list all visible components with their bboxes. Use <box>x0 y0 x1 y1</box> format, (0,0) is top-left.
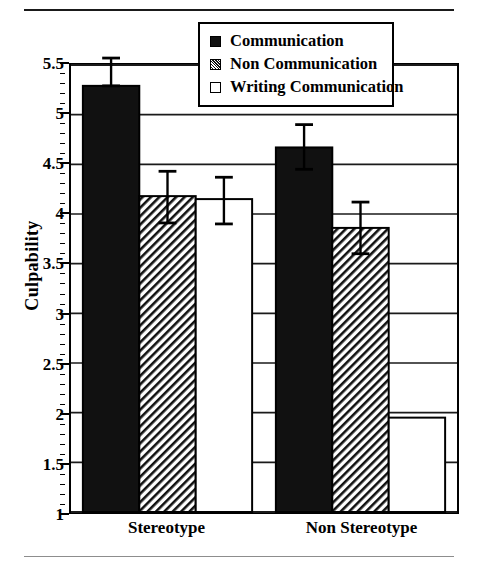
bar[interactable] <box>196 199 252 512</box>
y-axis-minor-tick <box>60 324 65 325</box>
y-axis-major-tick <box>60 513 69 515</box>
bar[interactable] <box>276 147 332 512</box>
y-axis-minor-tick <box>60 143 65 144</box>
bar[interactable] <box>139 196 195 512</box>
y-axis-major-tick <box>60 262 69 264</box>
x-axis-category-label: Stereotype <box>128 518 205 538</box>
chart-legend: CommunicationNon CommunicationWriting Co… <box>198 22 394 107</box>
y-axis-major-tick <box>60 413 69 415</box>
y-axis-minor-tick <box>60 504 65 505</box>
bar-group <box>83 86 252 512</box>
y-axis-minor-tick <box>60 103 65 104</box>
y-axis-major-tick <box>60 62 69 64</box>
y-axis-minor-tick <box>60 494 65 495</box>
y-axis-major-tick <box>60 313 69 315</box>
y-axis-minor-tick <box>60 183 65 184</box>
legend-item-label: Non Communication <box>230 56 377 73</box>
plot-area <box>69 63 459 514</box>
bar[interactable] <box>83 86 139 512</box>
y-axis-major-tick <box>60 463 69 465</box>
legend-item[interactable]: Writing Communication <box>210 76 384 99</box>
hatched-square-icon <box>210 59 221 70</box>
y-axis-minor-tick <box>60 374 65 375</box>
y-axis-minor-tick <box>60 273 65 274</box>
y-axis-minor-tick <box>60 203 65 204</box>
y-axis-major-tick <box>60 212 69 214</box>
y-axis-minor-tick <box>60 253 65 254</box>
y-axis-minor-tick <box>60 294 65 295</box>
y-axis-minor-tick <box>60 93 65 94</box>
y-axis-major-tick <box>60 162 69 164</box>
legend-item[interactable]: Non Communication <box>210 53 384 76</box>
y-axis-minor-tick <box>60 474 65 475</box>
y-axis-minor-tick <box>60 73 65 74</box>
error-bar <box>102 58 120 86</box>
y-axis-major-tick <box>60 363 69 365</box>
y-axis-minor-tick <box>60 123 65 124</box>
legend-item-label: Communication <box>230 33 344 50</box>
figure-top-rule <box>24 9 454 11</box>
legend-item[interactable]: Communication <box>210 30 384 53</box>
y-axis-minor-tick <box>60 344 65 345</box>
x-axis-category-labels: StereotypeNon Stereotype <box>69 518 459 544</box>
y-axis-minor-tick <box>60 354 65 355</box>
y-axis-tick-marks <box>60 63 69 514</box>
figure-canvas: Culpability 11.522.533.544.555.5 Stereot… <box>0 0 478 577</box>
bar[interactable] <box>389 418 445 512</box>
y-axis-minor-tick <box>60 304 65 305</box>
y-axis-minor-tick <box>60 193 65 194</box>
bar-series-group <box>71 65 457 512</box>
y-axis-minor-tick <box>60 394 65 395</box>
y-axis-minor-tick <box>60 283 65 284</box>
legend-item-label: Writing Communication <box>230 79 403 96</box>
y-axis-minor-tick <box>60 233 65 234</box>
y-axis-minor-tick <box>60 454 65 455</box>
y-axis-minor-tick <box>60 83 65 84</box>
y-axis-major-tick <box>60 112 69 114</box>
y-axis-minor-tick <box>60 434 65 435</box>
y-axis-minor-tick <box>60 173 65 174</box>
y-axis-minor-tick <box>60 133 65 134</box>
y-axis-minor-tick <box>60 404 65 405</box>
solid-square-icon <box>210 36 221 47</box>
open-square-icon <box>210 82 221 93</box>
bar[interactable] <box>332 228 388 512</box>
x-axis-category-label: Non Stereotype <box>306 518 418 538</box>
y-axis-minor-tick <box>60 223 65 224</box>
y-axis-minor-tick <box>60 444 65 445</box>
figure-bottom-rule <box>24 556 454 557</box>
y-axis-minor-tick <box>60 424 65 425</box>
y-axis-minor-tick <box>60 384 65 385</box>
y-axis-minor-tick <box>60 484 65 485</box>
y-axis-minor-tick <box>60 243 65 244</box>
y-axis-minor-tick <box>60 334 65 335</box>
y-axis-tick-labels: 11.522.533.544.555.5 <box>22 63 64 514</box>
y-axis-minor-tick <box>60 153 65 154</box>
